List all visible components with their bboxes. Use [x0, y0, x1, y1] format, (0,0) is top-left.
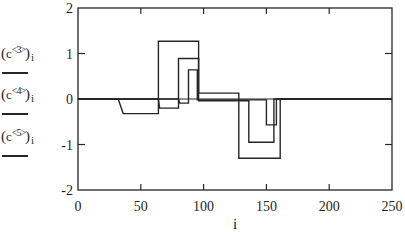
x-tick-label: 200 [319, 199, 340, 214]
x-tick-label: 100 [193, 199, 214, 214]
trace-label-c3: (c<3>)i [1, 44, 34, 63]
trace-label-c5: (c<5>)i [1, 127, 34, 146]
x-tick-label: 50 [134, 199, 148, 214]
trace-label-subscript: i [31, 51, 34, 63]
trace-label-c4: (c<4>)i [1, 85, 34, 104]
trace-line-sample-c4 [2, 113, 28, 115]
x-tick-label: 0 [75, 199, 82, 214]
trace-line-sample-c5 [2, 155, 28, 157]
trace-label-subscript: i [31, 92, 34, 104]
trace-label-superscript: <3> [12, 44, 25, 55]
trace-label-superscript: <4> [12, 85, 25, 96]
x-axis-title: i [233, 216, 237, 232]
paren-close: ) [25, 128, 30, 144]
trace-label-subscript: i [31, 134, 34, 146]
paren-close: ) [25, 86, 30, 102]
y-axis-trace-legend: (c<3>)i (c<4>)i (c<5>)i [0, 0, 78, 190]
trace-line-sample-c3 [2, 72, 28, 74]
trace-5 [78, 70, 392, 125]
wavelet-basis-plot-figure: (c<3>)i (c<4>)i (c<5>)i 0501001502002502… [0, 0, 405, 232]
trace-label-superscript: <5> [12, 127, 25, 138]
x-tick-label: 250 [382, 199, 403, 214]
x-tick-label: 150 [256, 199, 277, 214]
paren-close: ) [25, 45, 30, 61]
